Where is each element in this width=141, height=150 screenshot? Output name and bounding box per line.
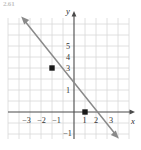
y-axis-arrowhead (72, 11, 77, 17)
data-point-marker (82, 109, 87, 114)
y-tick-label: −1 (63, 129, 72, 138)
x-tick-label: 2 (94, 116, 98, 125)
y-tick-label: 5 (66, 42, 70, 51)
line-arrowhead-start (21, 17, 29, 25)
x-tick-label: 3 (109, 116, 113, 125)
x-tick-label: −3 (22, 116, 31, 125)
y-axis-label: y (65, 6, 70, 16)
y-tick-label: 1 (66, 86, 70, 95)
x-axis-arrowhead (130, 110, 136, 115)
x-tick-label: 1 (82, 116, 86, 125)
x-tick-label: −1 (52, 116, 61, 125)
y-tick-label: 4 (66, 53, 70, 62)
y-tick-label: 3 (66, 64, 70, 73)
x-axis-label: x (130, 116, 135, 126)
data-point-marker (49, 65, 54, 70)
graph-figure: 2.61 (0, 0, 141, 150)
x-tick-label: −2 (37, 116, 46, 125)
coordinate-plane: −3 −2 −1 1 2 3 −1 1 3 4 5 x y (0, 0, 141, 150)
